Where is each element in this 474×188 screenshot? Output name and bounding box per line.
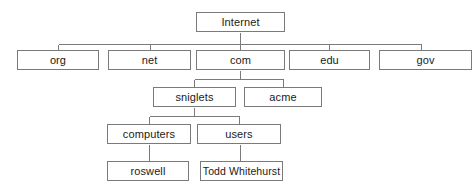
- node-org[interactable]: org: [17, 50, 99, 70]
- node-label-todd-whitehurst: Todd Whitehurst: [203, 166, 280, 177]
- node-net[interactable]: net: [108, 50, 191, 70]
- node-label-net: net: [142, 55, 158, 66]
- node-internet[interactable]: Internet: [196, 12, 285, 32]
- node-label-roswell: roswell: [131, 166, 166, 177]
- node-computers[interactable]: computers: [107, 124, 191, 144]
- node-roswell[interactable]: roswell: [107, 161, 189, 181]
- node-label-computers: computers: [123, 129, 175, 140]
- node-label-gov: gov: [416, 55, 434, 66]
- node-users[interactable]: users: [197, 124, 281, 144]
- node-label-com: com: [230, 55, 251, 66]
- node-label-sniglets: sniglets: [175, 92, 213, 103]
- node-sniglets[interactable]: sniglets: [153, 87, 236, 107]
- node-label-internet: Internet: [221, 17, 259, 28]
- node-edu[interactable]: edu: [289, 50, 370, 70]
- node-label-edu: edu: [320, 55, 339, 66]
- node-label-users: users: [225, 129, 252, 140]
- node-label-acme: acme: [269, 92, 296, 103]
- tree-diagram: Internet org net com edu gov sniglets ac…: [0, 0, 474, 188]
- node-label-org: org: [50, 55, 66, 66]
- node-com[interactable]: com: [196, 50, 285, 70]
- node-acme[interactable]: acme: [244, 87, 322, 107]
- node-todd-whitehurst[interactable]: Todd Whitehurst: [200, 161, 283, 181]
- node-gov[interactable]: gov: [379, 50, 472, 70]
